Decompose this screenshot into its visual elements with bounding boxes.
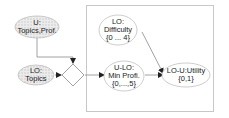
node-label-line: {0 ... 4} [106,33,130,42]
node-label-line: {0,1} [178,74,194,83]
node-label-line: Topics,Prof. [17,26,56,35]
node-u-topics-prof: U: Topics,Prof. [15,16,59,38]
decision-node-diamond [62,64,84,86]
influence-diagram: U: Topics,Prof. LO: Topics LO: Difficult… [0,0,229,118]
node-lo-topics: LO: Topics [18,65,54,85]
node-label-line: {0,...,5} [112,79,136,88]
node-lo-u-utility: LO-U:Utility {0,1} [162,63,210,87]
edge-u-to-decision [37,38,73,63]
node-ulo-min-profi: U-LO: Min Profi. {0,...,5} [104,61,144,91]
edge-difficulty-to-utility [142,32,163,73]
node-label-line: Topics [25,74,47,83]
node-lo-difficulty: LO: Difficulty {0 ... 4} [99,15,137,45]
